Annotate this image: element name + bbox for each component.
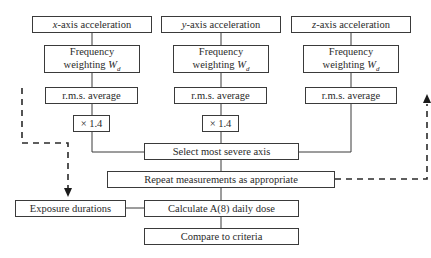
box-label: Frequency xyxy=(199,46,243,59)
calculate-daily-dose-box: Calculate A(8) daily dose xyxy=(144,200,299,217)
box-label: r.m.s. average xyxy=(322,90,380,102)
box-label: -axis acceleration xyxy=(316,19,390,30)
x-axis-acceleration-box: x-axis acceleration xyxy=(32,16,152,33)
z-frequency-weighting-box: Frequency weighting Wd xyxy=(303,45,399,73)
x-frequency-weighting-box: Frequency weighting Wd xyxy=(44,45,140,73)
box-label: Frequency xyxy=(329,46,373,59)
exposure-durations-box: Exposure durations xyxy=(15,200,126,217)
weight-subscript: d xyxy=(376,65,380,73)
y-multiplier-box: × 1.4 xyxy=(202,115,239,132)
vibration-assessment-flowchart: x-axis acceleration Frequency weighting … xyxy=(0,0,431,258)
repeat-measurements-box: Repeat measurements as appropriate xyxy=(107,171,335,188)
arrowhead-up-icon xyxy=(423,94,431,103)
box-label: × 1.4 xyxy=(210,118,232,130)
connector-z-rms-select xyxy=(299,103,351,152)
box-label: Frequency xyxy=(70,46,114,59)
box-label: weighting xyxy=(193,59,235,70)
box-label: Repeat measurements as appropriate xyxy=(144,174,298,186)
y-frequency-weighting-box: Frequency weighting Wd xyxy=(173,45,269,73)
compare-to-criteria-box: Compare to criteria xyxy=(144,228,299,245)
box-label: Compare to criteria xyxy=(181,231,263,243)
box-label: Calculate A(8) daily dose xyxy=(168,203,275,215)
box-label: weighting xyxy=(323,59,365,70)
weight-subscript: d xyxy=(117,65,121,73)
y-axis-acceleration-box: y-axis acceleration xyxy=(161,16,281,33)
box-label: -axis acceleration xyxy=(186,19,260,30)
box-label: r.m.s. average xyxy=(62,90,120,102)
box-label: r.m.s. average xyxy=(191,90,249,102)
connector-x-mult-select xyxy=(92,131,144,152)
z-axis-acceleration-box: z-axis acceleration xyxy=(291,16,411,33)
box-label: -axis acceleration xyxy=(57,19,131,30)
weight-symbol: W xyxy=(108,59,117,70)
box-label: weighting xyxy=(64,59,106,70)
dashed-loop-right xyxy=(335,104,427,179)
y-rms-average-box: r.m.s. average xyxy=(174,87,267,104)
x-rms-average-box: r.m.s. average xyxy=(45,87,138,104)
weight-symbol: W xyxy=(237,59,246,70)
x-multiplier-box: × 1.4 xyxy=(73,115,110,132)
weight-symbol: W xyxy=(367,59,376,70)
box-label: × 1.4 xyxy=(81,118,103,130)
weight-subscript: d xyxy=(246,65,250,73)
box-label: Select most severe axis xyxy=(173,146,271,158)
select-most-severe-axis-box: Select most severe axis xyxy=(144,143,299,160)
box-label: Exposure durations xyxy=(30,203,111,215)
arrowhead-down-icon xyxy=(64,188,72,197)
z-rms-average-box: r.m.s. average xyxy=(305,87,397,104)
